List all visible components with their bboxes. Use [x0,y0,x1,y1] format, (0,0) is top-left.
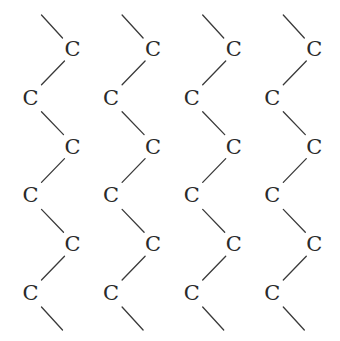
diagram-canvas: CCCCCCCCCCCCCCCCCCCCCCCC [0,0,340,341]
carbon-atom: C [64,37,80,61]
bond-line [42,112,64,135]
carbon-atom: C [64,135,80,159]
carbon-atom: C [184,281,200,305]
bond-line [122,256,145,280]
bond-top-line [42,15,63,38]
bond-bottom-line [42,307,63,330]
carbon-atom: C [226,37,242,61]
bond-line [203,61,226,85]
bond-bottom-line [283,307,304,330]
bond-line [203,112,225,135]
bond-line [203,159,226,183]
carbon-atom: C [22,281,38,305]
bond-line [203,256,226,280]
bond-line [283,61,306,85]
carbon-chain-1: CCCCCC [22,15,80,330]
carbon-atom: C [264,281,280,305]
bond-top-line [203,15,224,38]
carbon-chain-2: CCCCCC [103,15,161,330]
carbon-atom: C [184,183,200,207]
carbon-atom: C [103,281,119,305]
carbon-atom: C [145,232,161,256]
bond-line [42,61,65,85]
bond-line [42,256,65,280]
carbon-atom: C [184,86,200,110]
bond-line [122,209,144,232]
carbon-chains-figure: CCCCCCCCCCCCCCCCCCCCCCCC [0,0,340,341]
carbon-atom: C [103,183,119,207]
carbon-atom: C [264,86,280,110]
bond-line [122,112,144,135]
bond-top-line [283,15,304,38]
bond-line [283,256,306,280]
bond-line [283,159,306,183]
carbon-chain-3: CCCCCC [184,15,242,330]
bond-bottom-line [122,307,143,330]
bond-line [283,209,305,232]
bond-line [42,159,65,183]
carbon-atom: C [64,232,80,256]
bond-line [122,159,145,183]
bond-line [203,209,225,232]
bond-top-line [122,15,143,38]
carbon-atom: C [306,135,322,159]
carbon-chain-4: CCCCCC [264,15,322,330]
bond-line [42,209,64,232]
carbon-atom: C [306,37,322,61]
bond-line [283,112,305,135]
carbon-atom: C [22,86,38,110]
carbon-atom: C [103,86,119,110]
bond-bottom-line [203,307,224,330]
carbon-atom: C [226,232,242,256]
bond-line [122,61,145,85]
carbon-atom: C [22,183,38,207]
carbon-atom: C [145,135,161,159]
carbon-atom: C [306,232,322,256]
carbon-atom: C [226,135,242,159]
carbon-atom: C [145,37,161,61]
carbon-atom: C [264,183,280,207]
